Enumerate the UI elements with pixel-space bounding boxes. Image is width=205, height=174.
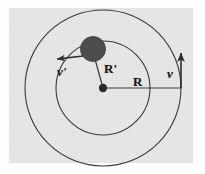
label-r-prime: R' <box>104 62 117 75</box>
label-v-prime: v' <box>57 65 66 78</box>
center-mass-dot <box>99 84 107 92</box>
orbiting-body <box>81 37 106 62</box>
diagram-svg <box>0 0 205 174</box>
label-v: v <box>167 67 173 80</box>
figure-root: v' R' R v <box>0 0 205 174</box>
label-r: R <box>133 75 142 88</box>
velocity-vector-v-prime <box>57 56 83 59</box>
